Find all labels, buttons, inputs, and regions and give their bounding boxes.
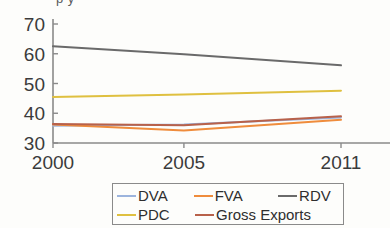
legend-swatch-icon [117,214,136,216]
chart-legend: DVAFVARDV PDCGross Exports [112,183,344,225]
legend-row: PDCGross Exports [117,205,339,224]
chart-title-text: p y [56,0,75,6]
y-tick-label: 50 [24,74,45,95]
plot-area: 3040506070 200020052011 [0,10,390,170]
legend-swatch-icon [194,195,213,197]
legend-item-fva: FVA [194,188,278,203]
y-tick-label: 40 [24,103,45,124]
y-axis-tick-labels: 3040506070 [24,14,45,154]
series-line-rdv [53,46,341,65]
data-series [53,46,341,130]
y-tick-label: 30 [24,133,45,154]
series-line-gross-exports [53,116,341,125]
legend-label: Gross Exports [216,207,311,222]
legend-swatch-icon [195,214,214,216]
legend-swatch-icon [117,195,136,197]
x-tick-label: 2011 [321,152,362,170]
legend-item-rdv: RDV [278,188,339,203]
x-tick-label: 2000 [32,152,74,170]
legend-item-gross-exports: Gross Exports [195,207,281,222]
legend-label: PDC [138,207,170,222]
legend-label: RDV [299,188,331,203]
legend-label: FVA [215,188,243,203]
y-tick-label: 60 [24,44,45,65]
legend-label: DVA [138,188,168,203]
x-tick-label: 2005 [163,152,205,170]
legend-item-dva: DVA [117,188,194,203]
x-axis-tick-labels: 200020052011 [32,152,362,170]
chart-title-remnant: p y [0,0,390,9]
legend-row: DVAFVARDV [117,186,339,205]
legend-item-pdc: PDC [117,207,195,222]
plot-svg: 3040506070 200020052011 [0,10,390,170]
series-line-pdc [53,91,341,97]
chart-figure: p y 3040506070 200020052011 DVAFVARDV PD… [0,0,390,228]
legend-swatch-icon [278,195,297,197]
y-tick-label: 70 [24,14,45,35]
